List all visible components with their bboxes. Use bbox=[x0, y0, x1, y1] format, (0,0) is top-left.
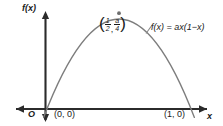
parabola-path bbox=[44, 19, 195, 117]
parabola-curve bbox=[44, 19, 195, 117]
x-axis-label: x bbox=[207, 112, 212, 121]
x-axis-arrow-right bbox=[199, 105, 207, 113]
vertex-x-numerator: 1 bbox=[105, 17, 111, 24]
origin-label: O bbox=[28, 110, 35, 119]
vertex-open-paren: ( bbox=[99, 15, 105, 32]
y-axis-label: f(x) bbox=[22, 4, 36, 13]
function-equation-label: f(x) = ax(1−x) bbox=[151, 23, 205, 32]
vertex-close-paren: ) bbox=[120, 15, 126, 32]
x-axis-arrow-left bbox=[16, 105, 24, 113]
parabola-diagram: f(x) x O (0, 0) (1, 0) f(x) = ax(1−x) ( … bbox=[0, 0, 223, 126]
vertex-comma: , bbox=[111, 25, 115, 34]
root-right-label: (1, 0) bbox=[164, 110, 185, 119]
root-left-label: (0, 0) bbox=[54, 110, 75, 119]
vertex-coordinate-label: ( 1 2 , a 4 ) bbox=[99, 16, 126, 33]
y-axis-arrow-down bbox=[42, 114, 49, 122]
y-axis-arrow-up bbox=[42, 11, 49, 19]
